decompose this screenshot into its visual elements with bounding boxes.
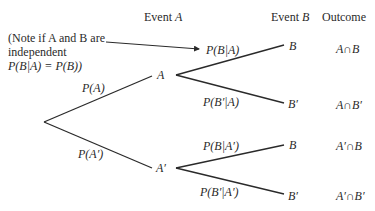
label-p-b-given-a: P(B|A)	[206, 44, 239, 56]
label-p-a: P(A)	[82, 82, 105, 94]
outcome-a-prime-and-b: A′∩B	[336, 140, 362, 152]
outcome-a-and-b-prime: A∩B′	[336, 99, 362, 111]
branch-line-a-prime	[44, 122, 152, 168]
node-b-prime-top: B′	[288, 98, 298, 110]
node-b-prime-bottom: B′	[288, 190, 298, 202]
note-line-1: (Note if A and B are	[8, 31, 105, 45]
outcome-a-and-b: A∩B	[336, 43, 359, 55]
label-p-a-prime: P(A′)	[78, 148, 103, 160]
label-p-b-given-a-prime: P(B|A′)	[203, 140, 239, 152]
outcome-a-prime-and-b-prime: A′∩B′	[336, 190, 365, 202]
header-event-a: Event A	[144, 11, 182, 23]
label-p-b-prime-given-a: P(B′|A)	[203, 96, 239, 108]
header-outcome: Outcome	[322, 11, 366, 23]
node-a-prime: A′	[156, 162, 166, 174]
independence-note: (Note if A and B are independent P(B|A) …	[8, 31, 105, 73]
header-event-b: Event B	[271, 11, 309, 23]
label-p-b-prime-given-a-prime: P(B′|A′)	[200, 186, 239, 198]
note-arrow	[106, 42, 199, 49]
node-a: A	[157, 69, 164, 81]
note-line-3: P(B|A) = P(B))	[8, 59, 105, 73]
node-b-bottom: B	[289, 139, 296, 151]
node-b-top: B	[289, 40, 296, 52]
note-line-2: independent	[8, 45, 105, 59]
